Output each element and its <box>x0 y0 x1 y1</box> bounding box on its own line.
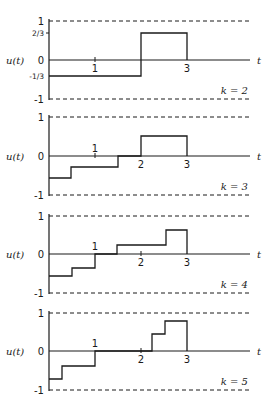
x-axis-label: t <box>257 55 262 66</box>
x-tick-label: 2 <box>138 159 144 170</box>
y-tick-label: 1 <box>38 308 44 319</box>
control-signal-trace <box>49 230 187 276</box>
y-tick-label: 1 <box>38 211 44 222</box>
k-label: k = 5 <box>221 376 248 387</box>
x-tick-label: 3 <box>184 63 190 74</box>
x-axis-label: t <box>257 151 262 162</box>
x-tick-label: 1 <box>92 241 98 252</box>
panel-k4: 1 0 -1 u(t) 1 2 3 t k = 4 <box>6 211 262 299</box>
y-tick-label: 0 <box>38 55 44 66</box>
panel-k5: 1 0 -1 u(t) 1 2 3 t k = 5 <box>6 308 262 396</box>
k-label: k = 4 <box>221 279 248 290</box>
y-tick-label: -1 <box>34 385 44 396</box>
y-tick-label: -1/3 <box>29 72 44 81</box>
step-response-figure: 1 2/3 0 -1/3 -1 u(t) 1 3 t k = 2 1 0 -1 … <box>0 0 271 403</box>
y-tick-label: -1 <box>34 190 44 201</box>
panel-k2: 1 2/3 0 -1/3 -1 u(t) 1 3 t k = 2 <box>6 16 262 105</box>
y-tick-label: 0 <box>38 249 44 260</box>
x-tick-label: 3 <box>184 159 190 170</box>
x-tick-label: 1 <box>92 63 98 74</box>
k-label: k = 3 <box>221 181 248 192</box>
y-tick-label: 0 <box>38 151 44 162</box>
x-tick-label: 2 <box>138 354 144 365</box>
x-tick-label: 3 <box>184 354 190 365</box>
control-signal-trace <box>49 136 187 178</box>
panel-k3: 1 0 -1 u(t) 1 2 3 t k = 3 <box>6 112 262 201</box>
y-axis-label: u(t) <box>6 346 24 357</box>
x-axis-label: t <box>257 249 262 260</box>
x-tick-label: 2 <box>138 257 144 268</box>
y-axis-label: u(t) <box>6 249 24 260</box>
y-tick-label: 0 <box>38 346 44 357</box>
y-tick-label: -1 <box>34 94 44 105</box>
control-signal-trace <box>49 33 187 76</box>
x-tick-label: 1 <box>92 143 98 154</box>
y-axis-label: u(t) <box>6 151 24 162</box>
control-signal-trace <box>49 321 187 379</box>
y-tick-label: -1 <box>34 288 44 299</box>
y-tick-label: 1 <box>38 16 44 27</box>
y-axis-label: u(t) <box>6 55 24 66</box>
k-label: k = 2 <box>221 85 248 96</box>
x-axis-label: t <box>257 346 262 357</box>
x-tick-label: 3 <box>184 257 190 268</box>
y-tick-label: 1 <box>38 112 44 123</box>
x-tick-label: 1 <box>92 338 98 349</box>
y-tick-label: 2/3 <box>32 29 44 38</box>
